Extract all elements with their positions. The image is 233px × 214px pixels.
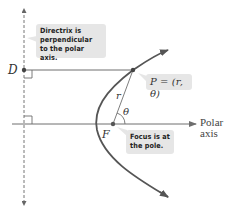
point-callout: P = (r, θ)	[146, 74, 192, 90]
parabola-polar-diagram	[0, 0, 233, 214]
focus-callout-line2: the pole.	[130, 141, 170, 150]
point-p	[131, 68, 135, 72]
label-r: r	[116, 90, 121, 101]
directrix-callout-line2: perpendicular	[40, 35, 102, 44]
parabola-lower-arrow	[160, 192, 168, 197]
focus-callout-line1: Focus is at	[130, 132, 170, 141]
point-f	[111, 122, 115, 126]
polar-axis-label-line2: axis	[200, 128, 218, 139]
label-theta: θ	[123, 106, 129, 117]
directrix-callout-line1: Directrix is	[40, 26, 102, 35]
right-angle-mark-axis	[24, 116, 32, 124]
label-f: F	[102, 128, 110, 141]
directrix-callout: Directrix is perpendicular to the polar …	[36, 24, 106, 58]
directrix-callout-line3: to the polar axis.	[40, 44, 102, 62]
focus-callout: Focus is at the pole.	[126, 130, 174, 154]
point-d	[22, 68, 26, 72]
label-d: D	[8, 63, 18, 77]
